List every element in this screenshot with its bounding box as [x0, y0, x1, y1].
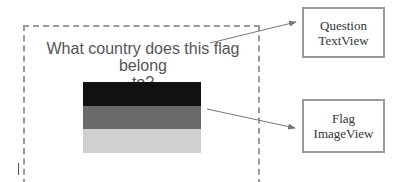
- arrow-to-question-label: [210, 22, 296, 43]
- arrow-to-flag-label: [207, 109, 295, 128]
- annotation-arrows: [0, 0, 403, 182]
